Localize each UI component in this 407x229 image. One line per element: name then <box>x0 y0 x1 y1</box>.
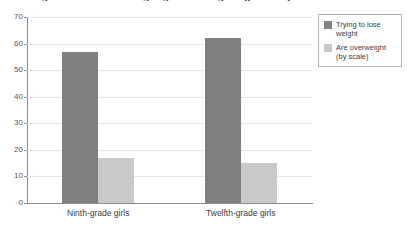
y-axis-tick-mark <box>24 17 27 18</box>
legend-label-trying-to-lose-weight: Trying to loseweight <box>336 20 381 38</box>
y-axis-tick-label: 20 <box>14 146 23 154</box>
y-axis-tick-mark <box>24 150 27 151</box>
bar <box>98 158 134 203</box>
y-axis-tick-label: 60 <box>14 40 23 48</box>
y-axis-tick-label: 50 <box>14 66 23 74</box>
legend-swatch-dark-icon <box>324 21 332 29</box>
y-axis-tick-mark <box>24 70 27 71</box>
y-axis-tick-label: 30 <box>14 119 23 127</box>
y-axis-tick-mark <box>24 44 27 45</box>
gridline <box>27 44 312 45</box>
y-axis-tick-mark <box>24 203 27 204</box>
gridline <box>27 203 312 204</box>
bar-chart: Weight concerns among high school girls … <box>0 0 407 229</box>
y-axis-tick-mark <box>24 123 27 124</box>
legend-label-are-overweight: Are overweight(by scale) <box>336 43 386 61</box>
y-axis-tick-label: 40 <box>14 93 23 101</box>
y-axis-tick-label: 10 <box>14 172 23 180</box>
x-axis-category-label: Ninth-grade girls <box>38 208 158 218</box>
x-axis-category-label: Twelfth-grade girls <box>181 208 301 218</box>
y-axis-tick-mark <box>24 97 27 98</box>
legend-swatch-light-icon <box>324 44 332 52</box>
gridline <box>27 17 312 18</box>
plot-area: 010203040506070 <box>27 17 312 203</box>
legend-item-are-overweight: Are overweight(by scale) <box>324 43 396 61</box>
legend-text-line1: Are overweight <box>336 43 386 52</box>
chart-legend: Trying to loseweight Are overweight(by s… <box>318 14 402 67</box>
y-axis-tick-label: 70 <box>14 13 23 21</box>
y-axis-tick-label: 0 <box>19 199 23 207</box>
bar <box>241 163 277 203</box>
bar <box>62 52 98 203</box>
legend-item-trying-to-lose-weight: Trying to loseweight <box>324 20 396 38</box>
legend-text-line1: Trying to lose <box>336 20 381 29</box>
legend-text-line2: weight <box>336 29 358 38</box>
legend-text-line2: (by scale) <box>336 52 369 61</box>
chart-title: Weight concerns among high school girls … <box>22 0 322 1</box>
chart-title-clipped: Weight concerns among high school girls … <box>22 0 322 1</box>
bar <box>205 38 241 203</box>
y-axis-tick-mark <box>24 176 27 177</box>
